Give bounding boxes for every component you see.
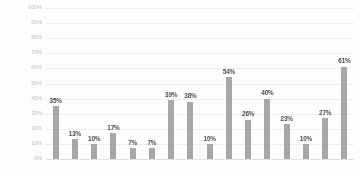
bar (226, 77, 232, 159)
bar-value-label: 38% (184, 93, 196, 99)
y-axis-tick-label: 40% (31, 96, 42, 101)
bar (53, 106, 59, 159)
bar-value-label: 17% (107, 125, 119, 131)
bar-chart: 0%10%20%30%40%50%60%70%80%90%100% 35%13%… (0, 0, 360, 176)
y-axis-tick-label: 70% (31, 51, 42, 56)
bar (149, 148, 155, 159)
y-axis-tick-label: 10% (31, 141, 42, 146)
bar-value-label: 7% (128, 140, 137, 146)
bar-item: 35% (46, 8, 65, 159)
bar-item: 23% (277, 8, 296, 159)
bar (187, 102, 193, 159)
y-axis-tick-label: 50% (31, 81, 42, 86)
y-axis-tick-label: 60% (31, 66, 42, 71)
y-axis-tick-label: 100% (28, 5, 42, 10)
bar-item: 10% (200, 8, 219, 159)
bar-item: 7% (142, 8, 161, 159)
bar-item: 61% (335, 8, 354, 159)
bar-value-label: 10% (300, 136, 312, 142)
plot-area: 35%13%10%17%7%7%39%38%10%54%26%40%23%10%… (46, 8, 354, 160)
y-axis: 0%10%20%30%40%50%60%70%80%90%100% (0, 8, 46, 160)
bar-value-label: 39% (165, 92, 177, 98)
bar (207, 144, 213, 159)
x-axis-baseline (46, 159, 354, 160)
bar (303, 144, 309, 159)
bar-value-label: 61% (338, 58, 350, 64)
bar-item: 39% (162, 8, 181, 159)
bar (245, 120, 251, 159)
bar (130, 148, 136, 159)
bar-value-label: 35% (50, 98, 62, 104)
bar (264, 99, 270, 159)
bar-item: 7% (123, 8, 142, 159)
bar-item: 40% (258, 8, 277, 159)
scan-artifact-upper: · (48, 101, 50, 106)
y-axis-tick-label: 30% (31, 111, 42, 116)
bar (72, 139, 78, 159)
scan-artifact-lower: · (47, 120, 49, 125)
bar (91, 144, 97, 159)
bar-value-label: 13% (69, 131, 81, 137)
bar-item: 27% (316, 8, 335, 159)
bar-item: 54% (219, 8, 238, 159)
y-axis-tick-label: 0% (34, 156, 42, 161)
bar (322, 118, 328, 159)
y-axis-tick-label: 20% (31, 126, 42, 131)
bar-series: 35%13%10%17%7%7%39%38%10%54%26%40%23%10%… (46, 8, 354, 159)
bar-value-label: 10% (204, 136, 216, 142)
bar (284, 124, 290, 159)
bar (110, 133, 116, 159)
bar-value-label: 27% (319, 110, 331, 116)
bar-item: 10% (85, 8, 104, 159)
y-axis-tick-label: 80% (31, 36, 42, 41)
bar-item: 13% (65, 8, 84, 159)
bar-value-label: 54% (223, 69, 235, 75)
bar-item: 26% (239, 8, 258, 159)
y-axis-tick-label: 90% (31, 20, 42, 25)
bar-value-label: 10% (88, 136, 100, 142)
bar-value-label: 26% (242, 111, 254, 117)
bar (341, 67, 347, 159)
bar-item: 38% (181, 8, 200, 159)
bar-value-label: 23% (281, 116, 293, 122)
bar-item: 17% (104, 8, 123, 159)
bar (168, 100, 174, 159)
bar-value-label: 7% (147, 140, 156, 146)
bar-item: 10% (296, 8, 315, 159)
bar-value-label: 40% (261, 90, 273, 96)
